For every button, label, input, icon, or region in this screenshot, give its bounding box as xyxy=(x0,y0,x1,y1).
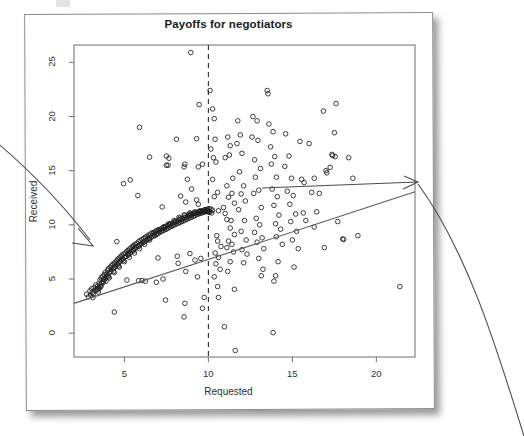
y-tick-label: 20 xyxy=(46,106,57,126)
x-tick-label: 20 xyxy=(366,368,386,379)
x-tick-label: 10 xyxy=(198,368,218,379)
y-tick-label: 0 xyxy=(46,323,57,343)
screenshot-root: Payoffs for negotiators Requested Receiv… xyxy=(0,0,524,436)
x-tick-label: 15 xyxy=(282,368,302,379)
y-tick-label: 25 xyxy=(46,52,57,72)
x-axis-label: Requested xyxy=(25,386,432,397)
reference-lines xyxy=(74,45,415,357)
y-axis-label: Received xyxy=(28,157,39,247)
x-tick-label: 5 xyxy=(114,368,134,379)
data-points xyxy=(84,50,402,353)
y-tick-label: 10 xyxy=(46,214,57,234)
y-tick-label: 5 xyxy=(46,269,57,289)
plot-frame xyxy=(74,45,415,357)
page-title: Payoffs for negotiators xyxy=(25,18,432,30)
scatter-plot xyxy=(0,0,524,436)
axis-ticks xyxy=(69,62,376,362)
y-tick-label: 15 xyxy=(46,160,57,180)
